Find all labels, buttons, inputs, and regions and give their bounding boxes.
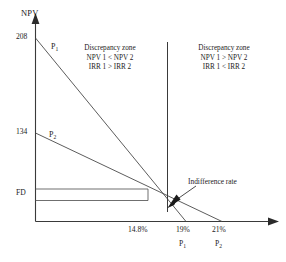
diagram-canvas — [0, 0, 286, 262]
curve-label-p1: P1 — [51, 43, 58, 52]
y-axis-title: NPV — [21, 9, 39, 19]
curve-label-p2-sub: 2 — [53, 134, 56, 140]
y-tick-208: 208 — [16, 33, 27, 42]
x-tick-irr-p2: 21% — [212, 226, 226, 235]
left-discrepancy-zone: Discrepancy zone NPV 1 < NPV 2 IRR 1 > I… — [66, 44, 154, 73]
x-axis-arrow — [268, 217, 279, 225]
left-zone-irr-relation: IRR 1 > IRR 2 — [66, 63, 154, 73]
left-zone-npv-relation: NPV 1 < NPV 2 — [66, 54, 154, 64]
curve-label-p1-sub: 1 — [55, 46, 58, 52]
right-zone-title: Discrepancy zone — [180, 44, 268, 54]
left-zone-title: Discrepancy zone — [66, 44, 154, 54]
x-axis-project-p1: P1 — [179, 240, 186, 249]
x-axis-project-p1-sub: 1 — [183, 243, 186, 249]
y-tick-134: 134 — [16, 128, 27, 137]
x-axis-project-p2: P2 — [215, 240, 222, 249]
indifference-rate-label: Indifference rate — [188, 178, 237, 186]
y-tick-fd: FD — [16, 189, 26, 198]
x-tick-irr-p1: 19% — [176, 226, 190, 235]
right-zone-irr-relation: IRR 1 < IRR 2 — [180, 63, 268, 73]
x-axis-project-p2-sub: 2 — [219, 243, 222, 249]
right-zone-npv-relation: NPV 1 > NPV 2 — [180, 54, 268, 64]
right-discrepancy-zone: Discrepancy zone NPV 1 > NPV 2 IRR 1 < I… — [180, 44, 268, 73]
x-tick-crossover: 14.8% — [128, 226, 148, 235]
curve-label-p2: P2 — [49, 131, 56, 140]
npv-profile-diagram: NPV 208 134 FD P1 P2 Discrepancy zone NP… — [0, 0, 286, 262]
